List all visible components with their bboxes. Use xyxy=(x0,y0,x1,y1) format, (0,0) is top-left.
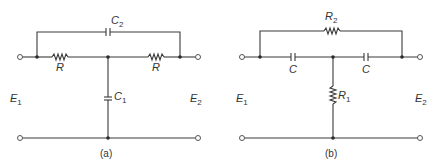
label-c-left: C xyxy=(289,63,297,75)
terminal-out-bottom xyxy=(196,136,201,141)
bypass-wire-right xyxy=(340,31,402,57)
capacitor-c2 xyxy=(106,28,110,36)
bypass-wire-left xyxy=(260,31,324,57)
label-r-right: R xyxy=(152,61,160,73)
label-c2: C2 xyxy=(111,14,124,29)
junction-dot xyxy=(106,136,110,140)
junction-dot xyxy=(258,55,262,59)
resistor-r2 xyxy=(324,28,340,34)
terminal-in-top xyxy=(18,55,23,60)
caption-a: (a) xyxy=(100,148,112,159)
capacitor-c-left xyxy=(291,53,295,61)
junction-dot xyxy=(331,55,335,59)
label-r1: R1 xyxy=(338,89,351,104)
junction-dot xyxy=(178,55,182,59)
circuit-b: R2 C C R1 E1 E2 xyxy=(236,10,427,159)
caption-b: (b) xyxy=(325,148,337,159)
label-e2: E2 xyxy=(415,92,427,107)
terminal-in-bottom xyxy=(18,136,23,141)
resistor-r1 xyxy=(330,86,336,104)
label-e2: E2 xyxy=(190,92,202,107)
label-c1: C1 xyxy=(114,90,127,105)
terminal-in-top xyxy=(240,55,245,60)
terminal-out-top xyxy=(418,55,423,60)
terminal-in-bottom xyxy=(240,136,245,141)
terminal-out-top xyxy=(196,55,201,60)
junction-dot xyxy=(106,55,110,59)
junction-dot xyxy=(35,55,39,59)
label-r-left: R xyxy=(56,61,64,73)
label-c-right: C xyxy=(362,63,370,75)
label-e1: E1 xyxy=(236,92,248,107)
circuit-diagrams: C2 R R C1 E1 E2 (a) xyxy=(0,0,442,163)
resistor-r-left xyxy=(52,54,68,60)
junction-dot xyxy=(331,136,335,140)
label-e1: E1 xyxy=(10,92,22,107)
bypass-wire-left xyxy=(37,32,106,57)
circuit-a: C2 R R C1 E1 E2 (a) xyxy=(10,14,202,159)
label-r2: R2 xyxy=(325,10,338,25)
junction-dot xyxy=(400,55,404,59)
resistor-r-right xyxy=(148,54,164,60)
capacitor-c1 xyxy=(104,97,112,100)
bypass-wire-right xyxy=(110,32,180,57)
terminal-out-bottom xyxy=(418,136,423,141)
capacitor-c-right xyxy=(364,53,368,61)
